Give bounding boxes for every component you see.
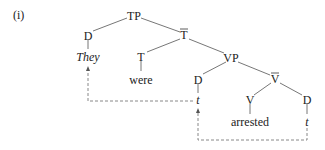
word-arrested: arrested [231, 115, 269, 129]
node-vp: VP [223, 51, 239, 65]
node-d-subject: D [84, 29, 93, 43]
arrowhead-icon [196, 108, 200, 113]
node-t-head: T [137, 50, 145, 64]
trace-spec: t [196, 93, 200, 107]
node-tp: TP [127, 9, 141, 23]
node-t-bar: T [180, 28, 188, 42]
word-were: were [129, 73, 152, 87]
arrowhead-icon [86, 66, 90, 71]
syntax-tree-diagram: (i) TP D They T T were VP D t V [0, 0, 325, 150]
trace-object: t [305, 115, 309, 129]
node-d-spec: D [194, 73, 203, 87]
example-label: (i) [13, 8, 24, 22]
word-they: They [76, 50, 100, 64]
node-d-object: D [303, 93, 312, 107]
node-v-head: V [246, 93, 255, 107]
node-v-bar: V [271, 72, 280, 86]
tree-nodes: TP D They T T were VP D t V V arrested D… [76, 9, 311, 129]
